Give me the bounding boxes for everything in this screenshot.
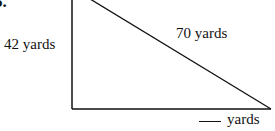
hypotenuse-label: 70 yards [176,25,227,42]
answer-blank[interactable] [199,121,221,122]
bottom-side-answer: yards [199,111,260,128]
bottom-side-label: yards [227,111,260,127]
hypotenuse [72,0,271,109]
left-side-label: 42 yards [4,36,55,53]
